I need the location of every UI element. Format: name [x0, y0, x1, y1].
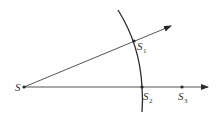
diagram-canvas: S S 1 S 2 S 3 — [0, 0, 221, 115]
point-s3 — [180, 85, 183, 88]
point-s1 — [132, 39, 135, 42]
circle-arc — [118, 10, 143, 112]
label-s: S — [15, 81, 21, 93]
inclined-ray — [24, 26, 171, 87]
point-s2 — [140, 85, 143, 88]
point-s — [22, 85, 25, 88]
label-s2-subscript: 2 — [149, 97, 153, 105]
label-s3-subscript: 3 — [184, 97, 188, 105]
label-s1-subscript: 1 — [143, 47, 147, 55]
